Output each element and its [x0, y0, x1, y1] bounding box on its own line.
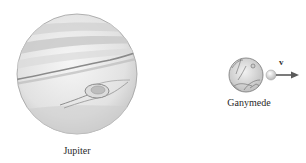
ganymede — [229, 58, 276, 92]
velocity-arrow — [276, 72, 299, 79]
arrow-head-icon — [291, 72, 299, 79]
figure-canvas — [0, 0, 306, 163]
figure: v Jupiter Ganymede — [0, 0, 306, 163]
jupiter — [10, 14, 145, 140]
small-sphere — [266, 70, 276, 80]
ganymede-label: Ganymede — [227, 97, 270, 108]
jupiter-label: Jupiter — [63, 145, 90, 156]
velocity-label: v — [279, 57, 284, 67]
great-red-spot — [85, 84, 109, 98]
